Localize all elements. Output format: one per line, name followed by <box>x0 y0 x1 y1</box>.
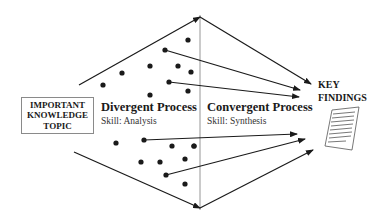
convergent-lower-arrow <box>200 150 313 208</box>
idea-arrow-4 <box>166 139 305 175</box>
idea-dots-lower <box>113 137 196 186</box>
idea-arrow-3 <box>144 134 297 140</box>
convergent-title: Convergent Process <box>207 100 313 115</box>
convergent-upper-arrow <box>200 17 311 84</box>
topic-line-2: KNOWLEDGE <box>27 110 88 121</box>
findings-line-2: FINDINGS <box>318 91 367 104</box>
divergent-title: Divergent Process <box>101 100 197 115</box>
document-icon <box>325 107 359 150</box>
divergent-skill: Skill: Analysis <box>101 116 157 126</box>
divergent-upper-arrow <box>79 17 200 85</box>
key-findings-label: KEY FINDINGS <box>318 78 367 104</box>
topic-line-1: IMPORTANT <box>30 100 85 111</box>
findings-line-1: KEY <box>318 78 367 91</box>
divergent-lower-arrow <box>74 152 200 208</box>
convergent-skill: Skill: Synthesis <box>207 116 266 126</box>
topic-box: IMPORTANT KNOWLEDGE TOPIC <box>21 97 94 134</box>
topic-line-3: TOPIC <box>43 121 71 132</box>
